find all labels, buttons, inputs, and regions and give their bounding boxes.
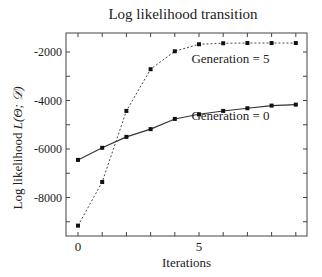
data-point [173, 49, 177, 53]
data-point [100, 146, 104, 150]
data-point [221, 41, 225, 45]
x-axis-label: Iterations [66, 255, 307, 271]
data-point [197, 42, 201, 46]
plot-frame [66, 33, 307, 236]
data-point [100, 180, 104, 184]
data-point [76, 224, 80, 228]
x-tick-label: 0 [75, 239, 82, 254]
y-tick-label: -4000 [34, 94, 62, 108]
y-axis-label: Log likelihood L(Θ; 𝒟) [10, 58, 26, 238]
data-point [124, 135, 128, 139]
series-annotation: Generation = 5 [191, 51, 269, 66]
y-tick-label: -6000 [34, 142, 62, 156]
data-point [173, 117, 177, 121]
data-point [270, 104, 274, 108]
series-line [78, 43, 296, 226]
line-chart: 05-8000-6000-4000-2000Generation = 0Gene… [0, 0, 322, 277]
data-point [294, 41, 298, 45]
y-axis-math: L(Θ; 𝒟) [10, 86, 25, 129]
data-point [245, 41, 249, 45]
y-tick-label: -8000 [34, 191, 62, 205]
x-tick-label: 5 [196, 239, 203, 254]
data-point [124, 109, 128, 113]
data-point [294, 103, 298, 107]
y-tick-label: -2000 [34, 45, 62, 59]
data-point [270, 41, 274, 45]
data-point [149, 67, 153, 71]
data-point [149, 127, 153, 131]
data-point [76, 158, 80, 162]
series-annotation: Generation = 0 [191, 108, 269, 123]
